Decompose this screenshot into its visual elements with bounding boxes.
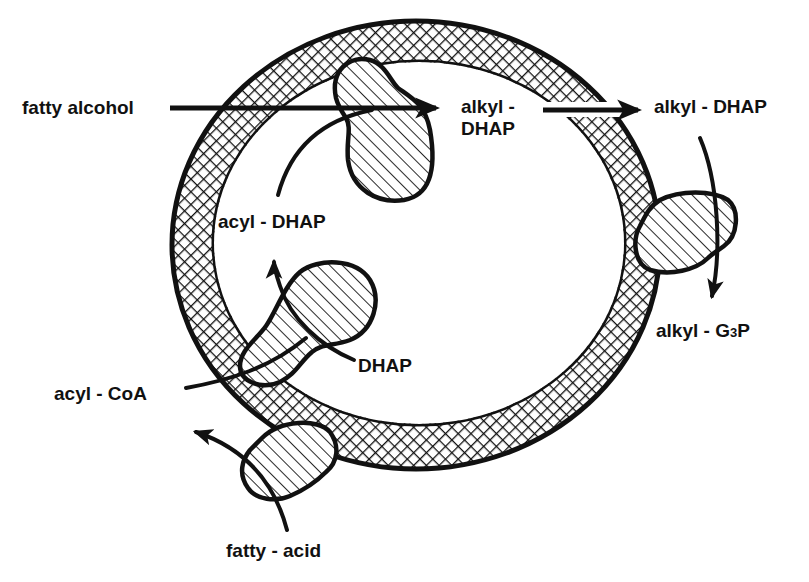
peroxisome-membrane [172,21,660,469]
label-alkyl-g3p: alkyl - G3P [656,320,750,341]
enzyme-bottom-blob [242,423,336,499]
label-alkyl-dhap-inner-2: DHAP [461,118,515,139]
label-alkyl-dhap-inner-1: alkyl - [461,96,515,117]
label-alkyl-dhap-outer: alkyl - DHAP [654,96,767,117]
label-dhap: DHAP [358,355,412,376]
label-acyl-dhap: acyl - DHAP [218,211,326,232]
label-acyl-coa: acyl - CoA [54,383,147,404]
ether-lipid-pathway-diagram: fatty alcohol alkyl - DHAP alkyl - DHAP … [0,0,809,582]
label-fatty-alcohol: fatty alcohol [22,97,134,118]
label-fatty-acid: fatty - acid [226,540,321,561]
